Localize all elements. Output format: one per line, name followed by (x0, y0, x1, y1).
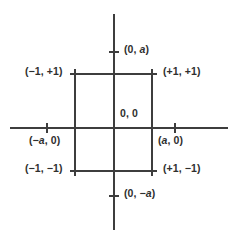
tick-origin (109, 123, 119, 133)
label-left-intercept: (−a, 0) (29, 135, 60, 146)
label-origin: 0, 0 (120, 108, 138, 119)
tick-right-intercept (170, 123, 180, 133)
label-bottom-right-pre: (+1, −1) (163, 162, 201, 174)
diagram-canvas (0, 0, 239, 241)
label-bottom-post: ) (152, 187, 156, 199)
coordinate-diagram: (0, a) (−1, +1) (+1, +1) 0, 0 (−a, 0) (a… (0, 0, 239, 241)
label-top-left-pre: (−1, +1) (25, 65, 63, 77)
label-bottom-pre: (0, − (124, 187, 146, 199)
label-right-post: , 0) (168, 134, 184, 146)
label-top-right-pre: (+1, +1) (163, 65, 201, 77)
tick-top-right-corner (147, 69, 157, 79)
label-top-right-corner: (+1, +1) (163, 66, 201, 77)
tick-bottom-right-corner (147, 166, 157, 176)
label-top-intercept: (0, a) (124, 44, 149, 55)
label-bottom-left-corner: (−1, −1) (25, 163, 63, 174)
tick-bottom-left-corner (70, 166, 80, 176)
label-top-pre: (0, (124, 43, 140, 55)
tick-bottom-intercept (109, 191, 119, 201)
tick-top-intercept (109, 47, 119, 57)
label-bottom-right-corner: (+1, −1) (163, 163, 201, 174)
tick-left-intercept (42, 123, 52, 133)
label-left-pre: (− (29, 134, 39, 146)
label-origin-pre: 0, 0 (120, 107, 138, 119)
label-top-post: ) (146, 43, 150, 55)
label-left-post: , 0) (45, 134, 61, 146)
tick-top-left-corner (70, 69, 80, 79)
label-bottom-left-pre: (−1, −1) (25, 162, 63, 174)
label-bottom-intercept: (0, −a) (124, 188, 155, 199)
label-top-left-corner: (−1, +1) (25, 66, 63, 77)
label-right-intercept: (a, 0) (158, 135, 183, 146)
